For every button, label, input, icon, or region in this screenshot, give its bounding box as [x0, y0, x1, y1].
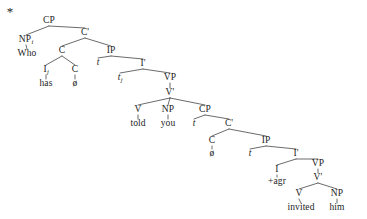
tree-node-invited: invited	[287, 203, 314, 213]
tree-node-label: V	[135, 104, 142, 114]
tree-node-label: C	[59, 45, 65, 55]
tree-edge-cp2-t3	[194, 115, 205, 119]
tree-node-label: ø	[210, 148, 215, 158]
tree-node-i1: Ij	[43, 65, 48, 75]
tree-node-label: VP	[164, 72, 176, 82]
tree-node-label: *	[7, 4, 14, 19]
tree-node-agr: +agr	[268, 177, 286, 187]
tree-node-label: C'	[81, 27, 89, 37]
tree-node-subscript: j	[121, 76, 123, 83]
tree-node-label: invited	[287, 202, 314, 212]
tree-node-label: CP	[199, 104, 211, 114]
tree-edge-cbar1-c1	[62, 38, 85, 46]
tree-node-ip2: IP	[262, 136, 271, 146]
tree-node-vbar1: V'	[166, 88, 175, 98]
tree-node-label: +agr	[268, 176, 286, 186]
tree-node-label: IP	[262, 135, 271, 145]
tree-node-label: V'	[314, 172, 323, 182]
tree-node-subscript: i	[32, 38, 34, 45]
tree-node-label: IP	[107, 45, 116, 55]
tree-node-you: you	[161, 119, 176, 129]
tree-node-label: you	[161, 118, 176, 128]
tree-node-label: CP	[43, 15, 55, 25]
tree-edge-ip1-ibar1	[111, 56, 143, 59]
tree-edge-ip1-t1	[98, 56, 111, 58]
tree-node-label: VP	[312, 158, 324, 168]
tree-node-t3: t	[193, 119, 196, 129]
tree-node-c3: C	[209, 136, 215, 146]
tree-node-i2: I	[275, 165, 278, 175]
tree-node-label: NP	[19, 34, 31, 44]
tree-node-t4: t	[249, 149, 252, 159]
tree-node-subscript: j	[47, 68, 49, 75]
tree-edge-cp1-cbar1	[49, 26, 85, 28]
tree-node-ibar1: I'	[140, 59, 145, 69]
tree-node-vp1: VP	[164, 73, 176, 83]
tree-edge-ip2-t4	[250, 146, 266, 149]
tree-node-cbar2: C'	[225, 119, 233, 129]
tree-node-t1: t	[97, 58, 100, 68]
tree-node-c1: C	[59, 46, 65, 56]
tree-node-label: I'	[140, 58, 145, 68]
tree-node-label: NP	[331, 188, 343, 198]
tree-node-star: *	[7, 5, 14, 18]
tree-node-c2: C	[72, 65, 78, 75]
tree-node-label: him	[329, 202, 344, 212]
tree-node-label: t	[97, 57, 100, 67]
tree-node-him: him	[329, 203, 344, 213]
tree-node-label: I	[275, 164, 278, 174]
tree-node-has: has	[40, 79, 53, 89]
tree-edges	[0, 0, 367, 219]
tree-node-label: V	[296, 188, 303, 198]
tree-edge-ip2-ibar2	[266, 146, 296, 149]
tree-node-np2: NP	[162, 105, 174, 115]
tree-edge-c1-i1	[46, 56, 62, 65]
tree-node-cbar1: C'	[81, 28, 89, 38]
tree-node-vp2: VP	[312, 159, 324, 169]
tree-node-label: I'	[293, 148, 298, 158]
tree-node-null1: ø	[73, 79, 78, 89]
tree-node-label: NP	[162, 104, 174, 114]
tree-edge-ibar1-t2	[120, 69, 143, 73]
tree-node-np3: NP	[331, 189, 343, 199]
tree-node-label: Who	[18, 48, 37, 58]
tree-node-label: C	[209, 135, 215, 145]
syntax-tree-figure: *CPNPiWhoC'CIPIjhasCøtI'tjVPV'VtoldNPyou…	[0, 0, 367, 219]
tree-edge-cbar2-ip2	[229, 129, 266, 136]
tree-node-null2: ø	[210, 149, 215, 159]
tree-node-ip1: IP	[107, 46, 116, 56]
tree-node-cp1: CP	[43, 16, 55, 26]
tree-node-v2: V	[296, 189, 303, 199]
tree-node-label: has	[40, 78, 53, 88]
tree-node-told: told	[130, 119, 145, 129]
tree-node-label: ø	[73, 78, 78, 88]
tree-node-label: t	[193, 118, 196, 128]
tree-node-v1: V	[135, 105, 142, 115]
tree-node-label: t	[249, 148, 252, 158]
tree-node-vbar2: V'	[314, 173, 323, 183]
tree-edge-ibar2-i2	[277, 159, 296, 165]
tree-node-label: told	[130, 118, 145, 128]
tree-node-label: C'	[225, 118, 233, 128]
tree-node-who: Who	[18, 49, 37, 59]
tree-node-label: C	[72, 64, 78, 74]
tree-node-label: I	[43, 64, 46, 74]
tree-node-label: V'	[166, 87, 175, 97]
tree-node-ibar2: I'	[293, 149, 298, 159]
tree-node-cp2: CP	[199, 105, 211, 115]
tree-node-t2: tj	[118, 73, 123, 83]
tree-node-np1: NPi	[19, 35, 33, 45]
